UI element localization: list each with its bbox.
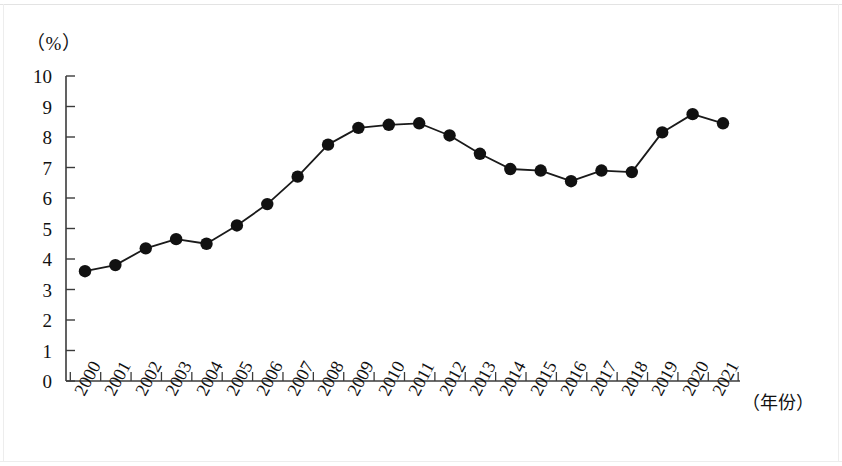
data-point bbox=[626, 166, 638, 178]
data-point bbox=[109, 259, 121, 271]
data-point bbox=[231, 219, 243, 231]
data-point bbox=[474, 148, 486, 160]
chart-figure: （%） 012345678910 20002001200220032004200… bbox=[0, 0, 842, 466]
data-point bbox=[383, 119, 395, 131]
data-point bbox=[686, 108, 698, 120]
data-point bbox=[595, 164, 607, 176]
data-point bbox=[504, 163, 516, 175]
x-axis-title: （年份） bbox=[742, 388, 814, 414]
data-point bbox=[535, 164, 547, 176]
data-point bbox=[565, 175, 577, 187]
data-point bbox=[200, 238, 212, 250]
data-point bbox=[717, 117, 729, 129]
axis-lines bbox=[66, 76, 740, 381]
data-point bbox=[413, 117, 425, 129]
data-point bbox=[352, 122, 364, 134]
data-point bbox=[443, 129, 455, 141]
data-point bbox=[261, 198, 273, 210]
data-point bbox=[656, 126, 668, 138]
y-axis-ticks bbox=[66, 76, 75, 381]
data-series-markers bbox=[79, 108, 729, 277]
data-point bbox=[291, 170, 303, 182]
data-point bbox=[79, 265, 91, 277]
data-point bbox=[322, 138, 334, 150]
data-point bbox=[140, 242, 152, 254]
data-series-line bbox=[85, 114, 723, 271]
data-point bbox=[170, 233, 182, 245]
